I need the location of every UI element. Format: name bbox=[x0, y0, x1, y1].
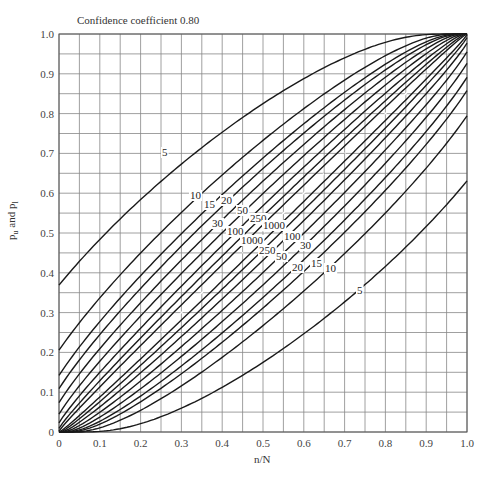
x-tick-label: 0.1 bbox=[93, 437, 107, 449]
x-tick-label: 0.3 bbox=[175, 437, 189, 449]
curve-label-5: 5 bbox=[357, 284, 363, 296]
x-tick-label: 0.7 bbox=[338, 437, 352, 449]
curve-label-10: 10 bbox=[325, 262, 337, 274]
y-axis-label: pu and pl bbox=[5, 201, 20, 240]
curve-label-250: 250 bbox=[259, 244, 276, 256]
y-tick-label: 0.2 bbox=[40, 346, 54, 358]
y-tick-label: 0.8 bbox=[40, 108, 54, 120]
curve-label-10: 10 bbox=[190, 189, 202, 201]
curve-label-50: 50 bbox=[276, 250, 288, 262]
curve-label-15: 15 bbox=[311, 257, 323, 269]
x-tick-label: 0.5 bbox=[256, 437, 270, 449]
curve-label-100: 100 bbox=[284, 230, 301, 242]
x-tick-label: 1.0 bbox=[460, 437, 474, 449]
curve-label-5: 5 bbox=[162, 146, 168, 158]
y-tick-label: 0.9 bbox=[40, 68, 54, 80]
y-tick-label: 0.6 bbox=[40, 187, 54, 199]
y-tick-label: 0.4 bbox=[40, 267, 54, 279]
x-tick-label: 0.4 bbox=[215, 437, 229, 449]
x-tick-label: 0 bbox=[56, 437, 62, 449]
y-tick-label: 0 bbox=[49, 426, 55, 438]
y-tick-label: 0.1 bbox=[40, 386, 54, 398]
y-tick-label: 0.7 bbox=[40, 147, 54, 159]
x-axis-label: n/N bbox=[254, 453, 271, 465]
y-tick-label: 0.5 bbox=[40, 227, 54, 239]
x-tick-label: 0.9 bbox=[419, 437, 433, 449]
curve-label-1000: 1000 bbox=[263, 219, 286, 231]
y-tick-label: 1.0 bbox=[40, 28, 54, 40]
x-tick-label: 0.6 bbox=[297, 437, 311, 449]
curve-label-20: 20 bbox=[221, 194, 233, 206]
curve-label-15: 15 bbox=[204, 198, 216, 210]
curve-label-30: 30 bbox=[212, 217, 224, 229]
curve-label-50: 50 bbox=[237, 204, 249, 216]
curve-label-30: 30 bbox=[300, 239, 312, 251]
x-tick-label: 0.2 bbox=[134, 437, 148, 449]
confidence-belt-chart: 5101520305010025010001000250100503020151… bbox=[0, 0, 493, 482]
curve-label-20: 20 bbox=[292, 261, 304, 273]
y-tick-label: 0.3 bbox=[40, 307, 54, 319]
x-tick-label: 0.8 bbox=[379, 437, 393, 449]
